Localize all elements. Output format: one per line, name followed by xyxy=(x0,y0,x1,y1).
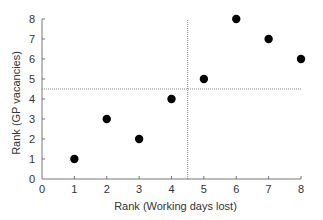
x-tick-label: 8 xyxy=(298,183,304,195)
y-axis-title: Rank (GP vacancies) xyxy=(10,51,22,155)
y-tick-label: 4 xyxy=(29,93,35,105)
y-tick-label: 3 xyxy=(29,113,35,125)
x-axis-title: Rank (Working days lost) xyxy=(114,200,237,212)
data-point xyxy=(264,35,272,43)
x-tick-label: 7 xyxy=(266,183,272,195)
x-tick-label: 6 xyxy=(233,183,239,195)
x-tick-label: 5 xyxy=(201,183,207,195)
data-point xyxy=(135,135,143,143)
data-point xyxy=(200,75,208,83)
y-tick-label: 8 xyxy=(29,13,35,25)
data-point xyxy=(103,115,111,123)
x-tick-label: 1 xyxy=(71,183,77,195)
y-ticks: 012345678 xyxy=(29,13,45,185)
scatter-chart: 012345678 012345678 Rank (Working days l… xyxy=(0,0,323,220)
data-point xyxy=(232,15,240,23)
y-tick-label: 2 xyxy=(29,133,35,145)
data-point xyxy=(297,55,305,63)
x-tick-label: 3 xyxy=(136,183,142,195)
y-tick-label: 6 xyxy=(29,53,35,65)
y-tick-label: 0 xyxy=(29,173,35,185)
data-point xyxy=(70,155,78,163)
y-tick-label: 5 xyxy=(29,73,35,85)
x-tick-label: 0 xyxy=(39,183,45,195)
y-tick-label: 7 xyxy=(29,33,35,45)
x-tick-label: 4 xyxy=(168,183,174,195)
x-tick-label: 2 xyxy=(104,183,110,195)
y-tick-label: 1 xyxy=(29,153,35,165)
data-point xyxy=(167,95,175,103)
